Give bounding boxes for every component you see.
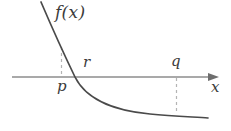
root-label-r: r <box>83 55 90 70</box>
x-axis <box>12 73 219 81</box>
graph-canvas <box>0 0 231 131</box>
function-graph-figure: f(x) p r q x <box>0 0 231 131</box>
point-label-q: q <box>171 54 181 69</box>
function-label: f(x) <box>55 4 85 21</box>
point-label-p: p <box>57 79 67 94</box>
x-axis-label: x <box>211 80 219 95</box>
